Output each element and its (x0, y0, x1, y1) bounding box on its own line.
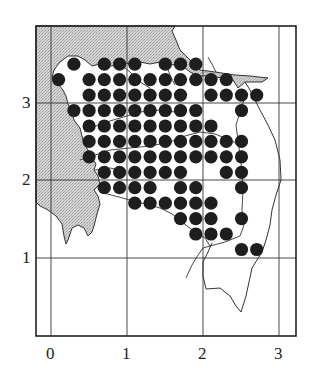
occurrence-dot (159, 104, 172, 117)
occurrence-dot (83, 119, 96, 132)
occurrence-dot (144, 135, 157, 148)
occurrence-dot (189, 58, 202, 71)
occurrence-dot (128, 197, 141, 210)
y-tick-1: 1 (22, 249, 31, 266)
occurrence-dot (189, 119, 202, 132)
occurrence-dot (113, 150, 126, 163)
occurrence-dot (250, 89, 263, 102)
occurrence-dot (128, 181, 141, 194)
occurrence-dot (220, 150, 233, 163)
occurrence-dot (235, 135, 248, 148)
occurrence-dot (83, 150, 96, 163)
occurrence-dot (128, 135, 141, 148)
occurrence-dot (235, 181, 248, 194)
occurrence-dot (174, 197, 187, 210)
occurrence-dot (98, 135, 111, 148)
occurrence-dot (144, 73, 157, 86)
occurrence-dot (159, 150, 172, 163)
occurrence-dot (159, 73, 172, 86)
occurrence-dot (144, 197, 157, 210)
occurrence-dot (113, 166, 126, 179)
x-tick-2: 2 (198, 345, 207, 362)
occurrence-dot (159, 89, 172, 102)
occurrence-dot (174, 166, 187, 179)
occurrence-dot (204, 197, 217, 210)
occurrence-dot (174, 104, 187, 117)
y-tick-2: 2 (22, 171, 31, 188)
occurrence-dot (128, 150, 141, 163)
occurrence-dot (113, 119, 126, 132)
occurrence-dot (189, 181, 202, 194)
occurrence-dot (98, 89, 111, 102)
occurrence-dot (113, 89, 126, 102)
occurrence-dot (128, 73, 141, 86)
occurrence-dot (189, 73, 202, 86)
occurrence-dot (235, 212, 248, 225)
occurrence-dot (98, 150, 111, 163)
distribution-map (0, 0, 309, 378)
occurrence-dot (144, 89, 157, 102)
occurrence-dot (204, 119, 217, 132)
occurrence-dot (189, 135, 202, 148)
occurrence-dot (128, 119, 141, 132)
occurrence-dot (204, 89, 217, 102)
occurrence-dot (174, 212, 187, 225)
occurrence-dot (174, 58, 187, 71)
occurrence-dot (67, 58, 80, 71)
occurrence-dot (113, 73, 126, 86)
x-tick-1: 1 (122, 345, 131, 362)
x-tick-0: 0 (46, 345, 55, 362)
occurrence-dot (204, 227, 217, 240)
occurrence-dot (98, 119, 111, 132)
occurrence-dot (174, 119, 187, 132)
occurrence-dot (174, 89, 187, 102)
occurrence-dot (235, 243, 248, 256)
occurrence-dot (83, 135, 96, 148)
occurrence-dot (174, 73, 187, 86)
occurrence-dot (174, 181, 187, 194)
occurrence-dot (52, 73, 65, 86)
occurrence-dot (235, 166, 248, 179)
occurrence-dot (174, 150, 187, 163)
y-tick-3: 3 (22, 94, 31, 111)
occurrence-dot (144, 166, 157, 179)
occurrence-dot (189, 227, 202, 240)
occurrence-dot (189, 197, 202, 210)
occurrence-dot (159, 135, 172, 148)
occurrence-dot (144, 181, 157, 194)
occurrence-dot (204, 150, 217, 163)
occurrence-dot (113, 104, 126, 117)
occurrence-dot (204, 135, 217, 148)
occurrence-dot (128, 104, 141, 117)
occurrence-dot (98, 166, 111, 179)
occurrence-dot (128, 166, 141, 179)
occurrence-dot (128, 89, 141, 102)
occurrence-dot (159, 197, 172, 210)
occurrence-dot (235, 104, 248, 117)
occurrence-dot (98, 58, 111, 71)
occurrence-dot (83, 89, 96, 102)
occurrence-dot (189, 212, 202, 225)
occurrence-dot (159, 166, 172, 179)
occurrence-dot (113, 135, 126, 148)
occurrence-dot (98, 73, 111, 86)
occurrence-dot (128, 58, 141, 71)
occurrence-dot (220, 73, 233, 86)
occurrence-dot (189, 150, 202, 163)
occurrence-dot (235, 150, 248, 163)
x-tick-3: 3 (274, 345, 283, 362)
occurrence-dot (83, 104, 96, 117)
occurrence-dot (174, 135, 187, 148)
occurrence-dot (83, 73, 96, 86)
occurrence-dot (235, 89, 248, 102)
occurrence-dot (159, 58, 172, 71)
occurrence-dot (189, 104, 202, 117)
occurrence-dot (144, 150, 157, 163)
occurrence-dot (220, 227, 233, 240)
occurrence-dot (220, 89, 233, 102)
occurrence-dot (204, 212, 217, 225)
occurrence-dot (98, 181, 111, 194)
occurrence-dot (220, 135, 233, 148)
occurrence-dot (98, 104, 111, 117)
occurrence-dot (113, 58, 126, 71)
